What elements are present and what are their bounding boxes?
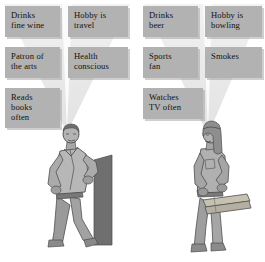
left-shoe	[191, 244, 207, 252]
trait-label-reads-books-often: Readsbooksoften	[5, 88, 60, 128]
left-leg	[52, 196, 70, 245]
stereotype-attribution-figure: Drinksfine wineHobby istravelPatron ofth…	[0, 0, 265, 262]
right-shoe	[84, 238, 98, 247]
right-hand	[217, 184, 227, 192]
trait-label-line: Smokes	[211, 51, 257, 61]
trait-label-line: Hobby is	[211, 10, 257, 20]
trait-label-line: the arts	[11, 61, 55, 71]
left-hand	[198, 188, 208, 196]
trait-label-line: fan	[149, 61, 193, 71]
trait-label-line: travel	[74, 20, 123, 30]
right-shoe	[211, 243, 226, 251]
lumber-carrying-man-figure	[191, 121, 251, 252]
left-shoe	[48, 240, 64, 247]
lumber-planks	[203, 194, 251, 214]
trait-label-line: beer	[149, 20, 193, 30]
trait-label-line: Patron of	[11, 51, 55, 61]
trait-label-line: Drinks	[149, 10, 193, 20]
trait-label-line: TV often	[149, 102, 198, 112]
trait-label-patron-of-the-arts: Patron ofthe arts	[5, 47, 60, 78]
trait-label-line: bowling	[211, 20, 257, 30]
trait-label-watches-tv-often: WatchesTV often	[143, 88, 203, 119]
right-hand	[83, 176, 93, 184]
trait-label-drinks-beer: Drinksbeer	[143, 6, 198, 37]
trait-label-health-conscious: Healthconscious	[68, 47, 128, 78]
trait-label-line: often	[11, 112, 55, 122]
trait-label-line: Drinks	[11, 10, 55, 20]
trait-label-hobby-is-travel: Hobby istravel	[68, 6, 128, 37]
trait-label-line: books	[11, 102, 55, 112]
trait-label-drinks-fine-wine: Drinksfine wine	[5, 6, 60, 37]
figure-illustration-layer	[0, 0, 265, 262]
trait-label-line: Sports	[149, 51, 193, 61]
trait-label-line: fine wine	[11, 20, 55, 30]
trait-label-line: Health	[74, 51, 123, 61]
right-leg	[70, 197, 94, 244]
trait-label-sports-fan: Sportsfan	[143, 47, 198, 78]
leaning-man-figure	[48, 124, 112, 247]
trait-label-line: Reads	[11, 92, 55, 102]
trait-label-line: conscious	[74, 61, 123, 71]
trait-label-line: Hobby is	[74, 10, 123, 20]
left-hand	[51, 186, 61, 194]
trait-label-smokes: Smokes	[205, 47, 262, 78]
trait-label-line: Watches	[149, 92, 198, 102]
trait-label-hobby-is-bowling: Hobby isbowling	[205, 6, 262, 37]
